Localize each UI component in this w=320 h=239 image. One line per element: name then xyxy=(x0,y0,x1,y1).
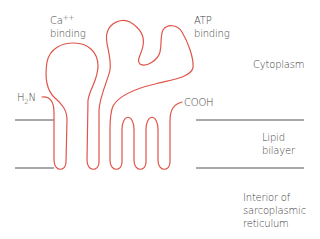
membrane-lines xyxy=(15,120,304,168)
atp-text: ATP xyxy=(194,15,212,26)
interior-label: Interior of sarcoplasmic reticulum xyxy=(243,191,306,230)
bilayer-text: bilayer xyxy=(262,145,295,156)
ca-binding-text: binding xyxy=(50,28,86,39)
interior-line1: Interior of xyxy=(243,192,290,203)
ca-text: Ca xyxy=(50,15,63,26)
atp-binding-label: ATP binding xyxy=(194,14,230,40)
ca-binding-label: Ca++ binding xyxy=(50,14,86,40)
interior-line2: sarcoplasmic xyxy=(243,205,306,216)
cytoplasm-label: Cytoplasm xyxy=(253,58,304,71)
protein-chain xyxy=(42,20,193,169)
lipid-bilayer-label: Lipid bilayer xyxy=(262,131,295,157)
lipid-text: Lipid xyxy=(262,132,285,143)
atp-binding-text: binding xyxy=(194,28,230,39)
ca-charge: ++ xyxy=(63,14,74,22)
n-text: N xyxy=(29,92,36,103)
n-terminus-label: H2N xyxy=(17,91,36,104)
interior-line3: reticulum xyxy=(243,218,289,229)
c-terminus-label: COOH xyxy=(184,96,213,109)
